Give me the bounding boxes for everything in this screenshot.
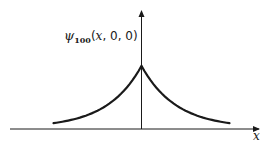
plot-canvas [0, 0, 272, 148]
psi-symbol: ψ [64, 28, 74, 43]
quantum-numbers-subscript: 100 [74, 35, 91, 45]
x-axis-label: x [253, 129, 260, 143]
function-label: ψ100(x, 0, 0) [64, 28, 138, 45]
peak-point [140, 65, 143, 68]
function-arguments: (x, 0, 0) [91, 29, 138, 43]
wavefunction-figure: ψ100(x, 0, 0) x [0, 0, 272, 148]
